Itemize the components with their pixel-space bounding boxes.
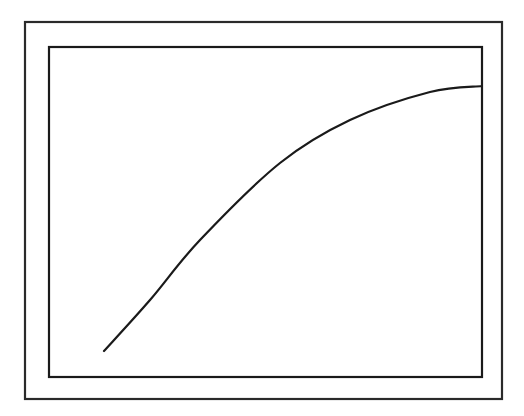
figure-canvas [0,0,524,416]
curve-line [104,86,482,351]
outer-frame [25,22,502,399]
